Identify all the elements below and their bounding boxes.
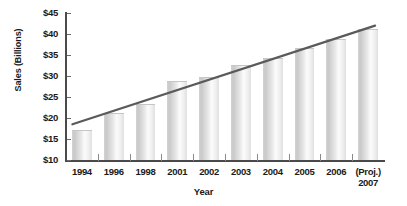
bar — [326, 39, 346, 160]
sales-bar-chart: Sales (Billions) $45$40$35$30$25$20$15$1… — [0, 0, 407, 206]
y-tick-label: $25 — [18, 92, 58, 101]
y-tick-label: $20 — [18, 113, 58, 122]
y-tick-label: $35 — [18, 50, 58, 59]
bar — [231, 65, 251, 161]
bar — [136, 104, 156, 160]
bar — [263, 58, 283, 160]
y-tick-label: $30 — [18, 71, 58, 80]
bar — [104, 113, 124, 160]
y-tick-label: $15 — [18, 134, 58, 143]
bar — [199, 77, 219, 160]
bar — [358, 29, 378, 160]
y-tick-label: $45 — [18, 8, 58, 17]
y-tick-label: $10 — [18, 155, 58, 164]
y-tick-mark — [67, 160, 71, 161]
x-axis-title: Year — [0, 186, 407, 197]
bar — [72, 130, 92, 160]
plot-area — [66, 13, 384, 160]
y-tick-label: $40 — [18, 29, 58, 38]
x-axis-label: (Proj.)2007 — [342, 166, 394, 188]
bar — [295, 48, 315, 160]
bar — [167, 81, 187, 160]
